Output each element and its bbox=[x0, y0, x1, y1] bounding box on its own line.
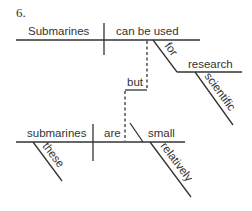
predicate-adjective-divider bbox=[130, 123, 143, 142]
clause-1-subject: Submarines bbox=[28, 25, 90, 37]
sentence-diagram: Submarines can be used for research scie… bbox=[0, 0, 252, 211]
conjunction: but bbox=[127, 76, 144, 88]
clause-1-verb: can be used bbox=[116, 25, 179, 37]
clause-2-subject: submarines bbox=[27, 127, 87, 139]
predicate-adjective: small bbox=[148, 127, 175, 139]
prepositional-object: research bbox=[188, 58, 233, 70]
clause-2-verb: are bbox=[104, 127, 121, 139]
subject-modifier: these bbox=[40, 140, 67, 170]
